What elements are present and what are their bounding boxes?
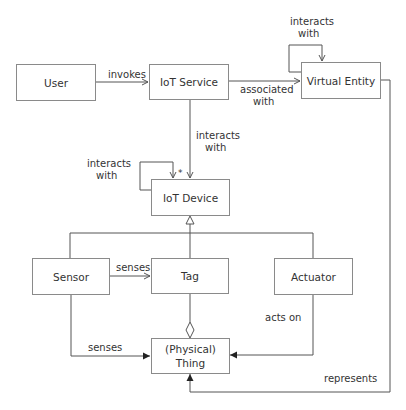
node-tag: Tag — [151, 258, 229, 294]
node-sensor: Sensor — [32, 258, 110, 295]
node-user: User — [16, 64, 96, 101]
multiplicity-star: * — [178, 168, 183, 178]
label-sensor-thing: senses — [88, 342, 122, 354]
label-device-self-1: interacts — [87, 158, 131, 170]
node-tag-label: Tag — [181, 269, 199, 283]
node-virtual-entity-label: Virtual Entity — [307, 74, 375, 88]
label-ve-self-1: interacts — [290, 16, 334, 28]
generalization-triangle — [186, 216, 194, 224]
node-actuator: Actuator — [274, 258, 353, 295]
node-virtual-entity: Virtual Entity — [301, 62, 381, 99]
label-device-self-2: with — [96, 170, 117, 182]
node-iot-device: IoT Device — [151, 179, 230, 216]
label-represents: represents — [324, 373, 377, 385]
label-associated-with-2: with — [253, 96, 274, 108]
edge-actuator-thing — [230, 294, 313, 355]
label-sensor-tag: senses — [116, 262, 150, 274]
label-ve-self-2: with — [298, 28, 319, 40]
node-iot-service: IoT Service — [149, 64, 229, 100]
label-actuator-thing: acts on — [265, 312, 301, 324]
label-invokes: invokes — [108, 69, 146, 81]
label-service-device-2: with — [205, 142, 226, 154]
node-thing-label-line1: (Physical) — [165, 342, 216, 356]
aggregation-diamond — [186, 322, 194, 338]
node-iot-device-label: IoT Device — [163, 191, 218, 205]
label-associated-with-1: associated — [240, 84, 294, 96]
label-service-device-1: interacts — [196, 130, 240, 142]
node-thing: (Physical) Thing — [151, 338, 230, 374]
node-actuator-label: Actuator — [291, 270, 336, 284]
node-iot-service-label: IoT Service — [160, 75, 218, 89]
node-user-label: User — [44, 76, 68, 90]
node-sensor-label: Sensor — [53, 270, 89, 284]
node-thing-label-line2: Thing — [176, 356, 205, 370]
